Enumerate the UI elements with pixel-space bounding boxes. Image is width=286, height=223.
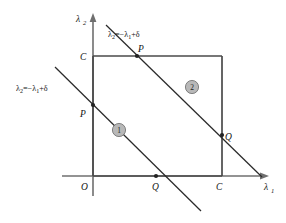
region-badge-1-label: 1 [117,126,121,135]
corner-labels-group: C C [80,52,223,192]
point-labels-group: P P Q Q [79,44,232,192]
axis-labels-group: λ 2 λ 1 O [75,14,274,194]
point-label-p-lower: P [79,109,86,119]
constraint-line-2 [106,25,262,177]
constraint-line-1-group [55,67,201,211]
y-axis-arrowhead [90,13,97,22]
eq2-tail: +δ [131,30,140,39]
x-axis-label-subscript: 1 [271,187,274,194]
eq1-text-group: λ2=−λ1+δ [16,84,48,94]
x-axis-c-label: C [216,182,223,192]
region-badge-2-label: 2 [190,83,194,92]
eq2-rest: =−λ [115,30,128,39]
point-label-p-upper: P [137,44,144,54]
point-label-q-lower: Q [152,182,159,192]
y-axis-label-subscript: 2 [83,19,87,26]
origin-label: O [81,182,88,192]
y-axis-c-label: C [80,52,87,62]
intersection-dot-p-upper [135,54,139,58]
eq1-rest: =−λ [23,84,36,93]
y-axis-label: λ [75,14,80,24]
figure-container: λ 2 λ 1 O C C P P Q Q λ2=−λ1+δ [0,0,286,223]
region-badge-2-group: 2 [185,80,198,93]
constraint-line-2-group [106,25,262,177]
point-label-q-upper: Q [225,132,232,142]
eq1-tail: +δ [39,84,48,93]
intersection-dot-p-lower [91,103,95,107]
constraint-line-1 [55,67,201,211]
intersection-dot-q-lower [154,174,158,178]
x-axis-label: λ [263,182,268,192]
intersection-dot-q-upper [220,133,224,137]
feasible-square-group [93,56,222,176]
constraint-region-diagram: λ 2 λ 1 O C C P P Q Q λ2=−λ1+δ [0,0,286,223]
region-badge-1-group: 1 [112,123,125,136]
equation-label-line-1: λ2=−λ1+δ [16,84,48,94]
